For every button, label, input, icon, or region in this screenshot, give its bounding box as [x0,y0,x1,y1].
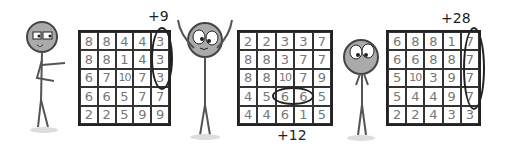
cell: 5 [388,69,406,87]
grid-2: 2 2 3 3 7 8 8 3 7 7 8 8 10 7 9 4 5 6 6 5… [237,30,333,126]
cell: 7 [294,69,312,87]
cell: 5 [388,87,406,105]
cell: 6 [80,69,98,87]
cell: 8 [424,32,442,50]
cell: 10 [116,69,134,87]
cell: 9 [443,69,461,87]
cell: 4 [424,87,442,105]
cell: 7 [98,69,116,87]
cell: 7 [313,50,331,68]
cell: 3 [424,69,442,87]
stick-figure-cheering [174,10,234,140]
cell: 9 [313,69,331,87]
cell: 2 [257,32,275,50]
cell: 4 [133,50,151,68]
cell: 7 [313,32,331,50]
cell: 7 [294,50,312,68]
cell: 10 [406,69,424,87]
cell: 8 [80,32,98,50]
cell: 8 [98,32,116,50]
cell: 3 [443,106,461,124]
cell: 4 [406,87,424,105]
cell: 1 [294,106,312,124]
cell: 5 [313,106,331,124]
cell: 7 [133,87,151,105]
cell: 4 [239,106,257,124]
score-annotation: +9 [148,8,169,24]
cell: 2 [239,32,257,50]
cell: 9 [443,87,461,105]
cell: 4 [257,106,275,124]
cell: 6 [98,87,116,105]
cell: 2 [80,106,98,124]
cell: 4 [133,32,151,50]
score-annotation: +12 [277,127,307,143]
cell: 2 [388,106,406,124]
cell: 6 [406,50,424,68]
cell: 6 [388,32,406,50]
cell: 8 [239,50,257,68]
cell: 8 [239,69,257,87]
cell: 8 [98,50,116,68]
cell: 3 [294,32,312,50]
cell: 3 [276,50,294,68]
cell: 9 [133,106,151,124]
cell: 8 [424,50,442,68]
cell: 3 [276,32,294,50]
cell: 10 [276,69,294,87]
highlight-oval [463,27,485,110]
cell: 4 [239,87,257,105]
cell: 4 [116,32,134,50]
cell: 2 [98,106,116,124]
cell: 4 [424,106,442,124]
score-annotation: +28 [441,10,471,26]
cell: 2 [406,106,424,124]
stick-figure-smug [20,15,75,135]
cell: 8 [257,50,275,68]
cell: 5 [116,87,134,105]
cell: 6 [276,106,294,124]
cell: 5 [116,106,134,124]
highlight-oval [272,87,314,105]
cell: 7 [151,87,169,105]
cell: 9 [151,106,169,124]
cell: 6 [388,50,406,68]
cell: 8 [406,32,424,50]
cell: 1 [443,32,461,50]
cell: 7 [133,69,151,87]
cell: 8 [80,50,98,68]
cell: 5 [313,87,331,105]
cell: 8 [443,50,461,68]
cell: 6 [80,87,98,105]
cell: 1 [116,50,134,68]
highlight-oval [151,27,173,90]
cell: 8 [257,69,275,87]
stick-figure-nervous [336,35,386,145]
